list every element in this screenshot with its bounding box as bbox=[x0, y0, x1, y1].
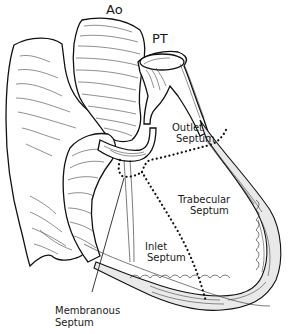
label-aorta: Ao bbox=[106, 2, 123, 17]
label-trabecular-septum-line2: Septum bbox=[190, 205, 229, 216]
label-inlet-septum-line1: Inlet bbox=[145, 241, 167, 252]
label-pulmonary-trunk: PT bbox=[152, 31, 168, 46]
label-outlet-septum-line1: Outlet bbox=[172, 122, 203, 133]
label-membranous-septum-line2: Septum bbox=[55, 317, 94, 328]
pt-orifice bbox=[140, 54, 184, 70]
label-outlet-septum-line2: Septum bbox=[176, 133, 215, 144]
label-trabecular-septum-line1: Trabecular bbox=[177, 194, 231, 205]
label-inlet-septum-line2: Septum bbox=[147, 252, 186, 263]
heart-septum-diagram: Ao PT Outlet Septum Trabecular Septum In… bbox=[0, 0, 288, 334]
septal-band-2 bbox=[130, 160, 134, 262]
septal-band bbox=[124, 160, 130, 262]
label-membranous-septum-line1: Membranous bbox=[55, 305, 120, 316]
